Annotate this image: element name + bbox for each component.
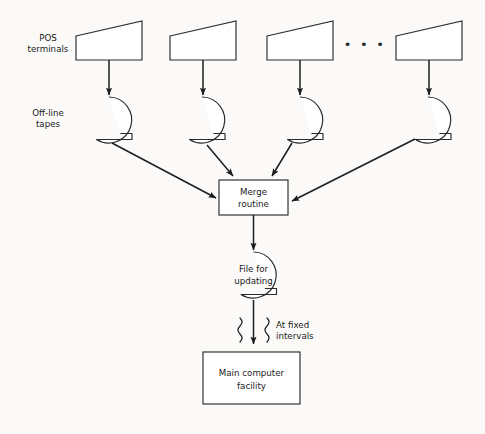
main-computer-facility-label-line1: Main computer xyxy=(219,368,285,378)
merge-routine-label-line2: routine xyxy=(238,199,269,209)
arrow-tape4-to-merge xyxy=(292,139,415,201)
pos-terminal-3 xyxy=(267,21,333,60)
offline-tape-3 xyxy=(288,97,324,143)
at-fixed-intervals-label-line2: intervals xyxy=(276,331,314,341)
offline-tape-1-shape xyxy=(97,97,133,143)
pos-terminals-label-line1: POS xyxy=(39,33,57,43)
at-fixed-intervals-label-line1: At fixed xyxy=(276,320,309,330)
pos-terminal-2 xyxy=(170,21,236,60)
offline-tape-3-shape xyxy=(288,97,324,143)
merge-routine-box xyxy=(219,180,288,215)
pos-terminals-row-label: POS terminals xyxy=(28,33,69,54)
merge-routine-label-line1: Merge xyxy=(240,187,267,197)
pos-terminals-label-line2: terminals xyxy=(28,44,69,54)
terminals-ellipsis: • • • xyxy=(344,37,386,52)
file-for-updating-label-line1: File for xyxy=(239,264,269,274)
arrow-tape1-to-merge xyxy=(112,143,216,198)
merge-routine-node: Merge routine xyxy=(219,180,288,215)
file-for-updating-label-line2: updating xyxy=(234,276,273,286)
diagram-canvas: POS terminals Off-line tapes • • • xyxy=(0,0,485,434)
pos-terminal-4-shape xyxy=(396,21,462,60)
offline-tape-2-shape xyxy=(190,97,226,143)
offline-tape-2 xyxy=(190,97,226,143)
offline-tapes-label-line1: Off-line xyxy=(32,108,64,118)
offline-tapes-row-label: Off-line tapes xyxy=(32,108,64,129)
offline-tape-4 xyxy=(416,97,452,143)
arrow-tape3-to-merge xyxy=(272,143,292,176)
offline-tape-1 xyxy=(97,97,133,143)
offline-tape-4-shape xyxy=(416,97,452,143)
pos-terminal-2-shape xyxy=(170,21,236,60)
main-computer-facility-box xyxy=(203,352,300,404)
pos-terminal-1-shape xyxy=(76,21,142,60)
squiggle-left-icon xyxy=(238,318,242,342)
pos-terminal-3-shape xyxy=(267,21,333,60)
main-computer-facility-label-line2: facility xyxy=(237,381,266,391)
flowchart-svg: POS terminals Off-line tapes • • • xyxy=(0,0,485,434)
pos-terminal-1 xyxy=(76,21,142,60)
arrow-tape2-to-merge xyxy=(207,145,233,176)
squiggle-right-icon xyxy=(265,318,269,342)
pos-terminal-4 xyxy=(396,21,462,60)
main-computer-facility-node: Main computer facility xyxy=(203,352,300,404)
file-for-updating-node: File for updating xyxy=(234,252,276,298)
offline-tapes-label-line2: tapes xyxy=(36,119,61,129)
